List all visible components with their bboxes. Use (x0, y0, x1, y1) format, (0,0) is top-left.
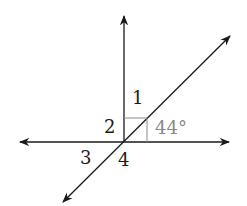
angle-3-label: 3 (80, 147, 91, 168)
angle-diagram: 1 2 3 4 44° (0, 0, 247, 206)
given-angle-label: 44° (155, 117, 187, 138)
angle-4-label: 4 (118, 149, 129, 170)
angle-2-label: 2 (104, 116, 115, 137)
angle-1-label: 1 (132, 87, 143, 108)
